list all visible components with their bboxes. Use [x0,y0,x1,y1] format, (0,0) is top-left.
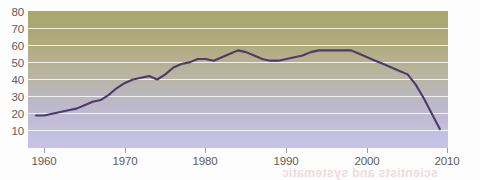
x-axis-label-2000: 2000 [344,156,390,168]
y-axis-label-80: 80 [0,7,24,19]
data-series-line [28,11,448,148]
y-axis-label-70: 70 [0,24,24,36]
y-axis-label-20: 20 [0,109,24,121]
y-axis-label-40: 40 [0,75,24,87]
y-axis-label-30: 30 [0,92,24,104]
x-axis-label-1990: 1990 [263,156,309,168]
x-axis-label-1970: 1970 [102,156,148,168]
y-axis-label-50: 50 [0,58,24,70]
x-axis-label-2010: 2010 [424,156,470,168]
x-axis-tick-2000 [367,148,368,153]
x-axis-tick-1980 [205,148,206,153]
page-bleed-through-text: scientists and systematic [18,166,438,180]
x-axis-tick-1970 [125,148,126,153]
y-axis-label-10: 10 [0,126,24,138]
x-axis-tick-1990 [286,148,287,153]
x-axis-tick-1960 [44,148,45,153]
x-axis-label-1980: 1980 [182,156,228,168]
x-axis-tick-2010 [447,148,448,153]
y-axis-label-60: 60 [0,41,24,53]
plot-area [28,11,448,148]
x-axis-label-1960: 1960 [21,156,67,168]
chart-figure: 80 70 60 50 40 30 20 10 1960 1970 1980 1… [0,0,480,180]
